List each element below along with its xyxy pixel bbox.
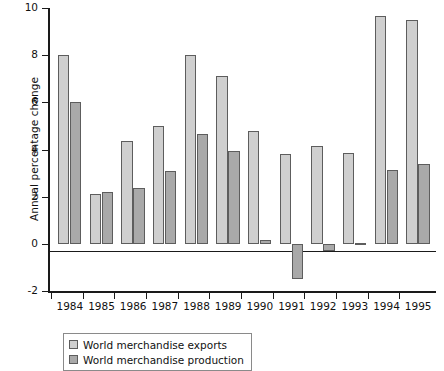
x-tick	[273, 293, 274, 299]
bar-1985-production	[102, 192, 114, 244]
plot-area: -20246810 198419851986198719881989199019…	[48, 8, 436, 293]
bar-1993-production	[355, 243, 367, 245]
y-tick-label: 8	[31, 48, 38, 60]
bar-1984-production	[70, 102, 82, 244]
x-tick-label: 1986	[117, 300, 149, 312]
x-tick	[51, 293, 52, 299]
x-tick	[399, 293, 400, 299]
y-tick: -2	[42, 291, 48, 292]
bar-1995-exports	[406, 20, 418, 244]
x-tick	[368, 293, 369, 299]
legend-swatch-exports	[69, 340, 78, 349]
x-tick-label: 1991	[276, 300, 308, 312]
y-tick: 0	[42, 244, 48, 245]
bar-1988-production	[197, 134, 209, 244]
bar-1986-exports	[121, 141, 133, 244]
bar-1987-exports	[153, 126, 165, 244]
y-tick: 10	[42, 8, 48, 9]
bar-1988-exports	[185, 55, 197, 244]
bar-1994-exports	[375, 16, 387, 244]
y-tick-label: 2	[31, 190, 38, 202]
chart-legend: World merchandise exportsWorld merchandi…	[63, 333, 252, 371]
bar-1995-production	[418, 164, 430, 244]
bar-1989-production	[228, 151, 240, 244]
x-tick	[178, 293, 179, 299]
bar-1990-production	[260, 240, 272, 244]
x-tick-label: 1988	[181, 300, 213, 312]
x-axis-line	[48, 291, 436, 293]
bar-1984-exports	[58, 55, 70, 244]
x-tick	[146, 293, 147, 299]
x-tick-label: 1995	[402, 300, 434, 312]
y-tick-label: 6	[31, 95, 38, 107]
bar-1992-exports	[311, 146, 323, 244]
legend-item-production: World merchandise production	[69, 352, 244, 367]
y-tick-label: 4	[31, 143, 38, 155]
y-tick: 6	[42, 102, 48, 103]
y-tick: 8	[42, 55, 48, 56]
bar-1989-exports	[216, 76, 228, 243]
y-tick-label: 10	[25, 1, 38, 13]
x-tick	[83, 293, 84, 299]
x-tick	[241, 293, 242, 299]
x-tick-label: 1994	[371, 300, 403, 312]
bar-1991-production	[292, 244, 304, 279]
y-tick-label: 0	[31, 237, 38, 249]
x-tick-label: 1987	[149, 300, 181, 312]
bar-1986-production	[133, 188, 145, 243]
bar-1990-exports	[248, 131, 260, 244]
legend-label-production: World merchandise production	[83, 354, 244, 366]
bar-1991-exports	[280, 154, 292, 244]
zero-baseline	[48, 251, 436, 252]
y-tick: 4	[42, 150, 48, 151]
x-tick	[209, 293, 210, 299]
x-tick	[114, 293, 115, 299]
legend-item-exports: World merchandise exports	[69, 337, 244, 352]
x-tick	[336, 293, 337, 299]
x-tick-label: 1985	[86, 300, 118, 312]
x-tick-label: 1992	[307, 300, 339, 312]
y-tick-label: -2	[28, 284, 38, 296]
legend-label-exports: World merchandise exports	[83, 339, 227, 351]
bar-1987-production	[165, 171, 177, 244]
y-tick: 2	[42, 197, 48, 198]
bar-1985-exports	[90, 194, 102, 244]
bar-chart: Annual percentage change -20246810 19841…	[0, 0, 444, 371]
bar-1994-production	[387, 170, 399, 244]
x-tick-label: 1990	[244, 300, 276, 312]
x-tick	[304, 293, 305, 299]
legend-swatch-production	[69, 355, 78, 364]
bar-1993-exports	[343, 153, 355, 244]
x-tick-label: 1984	[54, 300, 86, 312]
x-tick-label: 1989	[212, 300, 244, 312]
x-tick-label: 1993	[339, 300, 371, 312]
bar-1992-production	[323, 244, 335, 251]
